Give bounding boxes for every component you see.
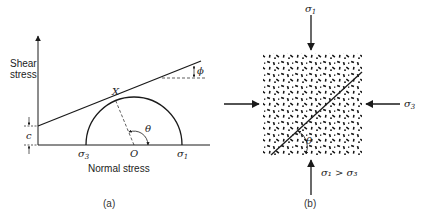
cohesion-label: c — [26, 130, 32, 141]
panel-a-mohr-circle: ϕ θ X c σ3 O σ1 Shearstress Normal stres… — [10, 36, 210, 209]
theta-label-b: θ — [306, 135, 312, 146]
y-axis-label: Shearstress — [10, 58, 37, 80]
center-o-label: O — [130, 148, 138, 159]
granular-specimen — [263, 53, 362, 156]
failure-envelope-line — [38, 61, 201, 126]
stress-condition-label: σ₁ > σ₃ — [321, 167, 357, 178]
sigma1-top-label: σ1 — [305, 3, 316, 16]
radius-dashed — [115, 99, 134, 145]
point-x-label: X — [111, 86, 120, 97]
caption-b: (b) — [304, 198, 316, 209]
sigma3-right-label: σ3 — [404, 98, 416, 111]
theta-label-a: θ — [145, 123, 151, 134]
sigma3-label-a: σ3 — [78, 148, 90, 161]
caption-a: (a) — [103, 198, 115, 209]
x-axis-label: Normal stress — [88, 163, 150, 174]
panel-b-specimen: θ σ1 σ3 σ₁ > σ₃ (b) — [224, 3, 416, 209]
mohr-semicircle — [86, 97, 182, 145]
mohr-coulomb-figure: ϕ θ X c σ3 O σ1 Shearstress Normal stres… — [0, 0, 423, 223]
sigma1-label-a: σ1 — [177, 148, 188, 161]
phi-label: ϕ — [197, 65, 204, 76]
